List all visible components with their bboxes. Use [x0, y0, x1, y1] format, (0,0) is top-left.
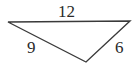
side-label-right: 6	[115, 39, 124, 56]
triangle-diagram: 12 9 6	[0, 0, 137, 72]
side-label-top: 12	[58, 3, 75, 20]
side-label-left: 9	[27, 39, 36, 56]
